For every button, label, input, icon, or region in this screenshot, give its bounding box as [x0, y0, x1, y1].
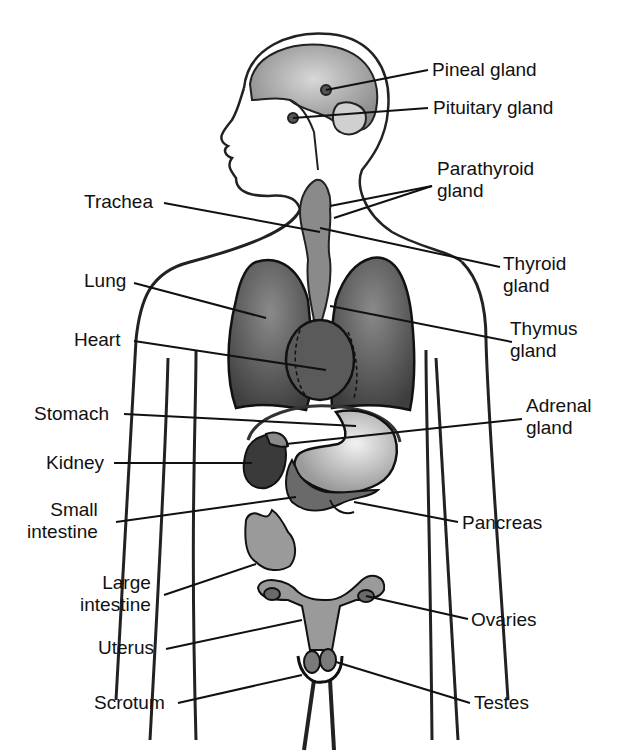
- label-adrenal-gland: Adrenal gland: [526, 395, 592, 439]
- label-parathyroid-gland: Parathyroid gland: [437, 158, 534, 202]
- label-testes: Testes: [474, 692, 529, 714]
- label-pituitary-gland: Pituitary gland: [433, 97, 553, 119]
- label-thyroid-gland: Thyroid gland: [503, 253, 566, 297]
- label-kidney: Kidney: [46, 452, 104, 474]
- label-uterus: Uterus: [98, 637, 154, 659]
- kidney: [244, 433, 288, 489]
- label-heart: Heart: [74, 329, 120, 351]
- label-ovaries: Ovaries: [471, 609, 536, 631]
- label-large-intestine: Large intestine: [80, 572, 151, 616]
- label-lung: Lung: [84, 270, 126, 292]
- brain: [250, 45, 377, 170]
- label-pancreas: Pancreas: [462, 512, 542, 534]
- label-stomach: Stomach: [34, 403, 109, 425]
- label-small-intestine: Small intestine: [27, 499, 98, 543]
- testes-scrotum: [298, 649, 342, 682]
- label-scrotum: Scrotum: [94, 692, 165, 714]
- label-thymus-gland: Thymus gland: [510, 318, 578, 362]
- large-intestine: [245, 510, 295, 570]
- uterus-ovaries: [258, 576, 384, 650]
- label-trachea: Trachea: [84, 191, 153, 213]
- label-pineal-gland: Pineal gland: [432, 59, 537, 81]
